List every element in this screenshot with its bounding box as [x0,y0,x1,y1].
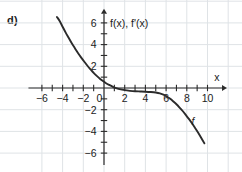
y-tick-label: −2 [85,104,97,116]
origin-label: 0 [97,92,103,104]
x-tick-label: 2 [122,92,128,104]
x-tick-label: 10 [202,92,214,104]
y-axis-label: f(x), f'(x) [110,17,148,29]
y-tick-label: −4 [85,125,97,137]
y-tick-label: 4 [91,38,97,50]
x-axis-label: x [214,71,220,83]
function-curve-f [57,17,204,143]
x-tick-label: 4 [142,92,148,104]
figure-panel: d) −6−4−22468100642−2−4−6 x f(x), f'(x) … [0,0,242,172]
y-tick-label: 6 [91,17,97,29]
curve-label-f: f [192,116,196,127]
y-tick-label: −6 [85,147,97,159]
coordinate-plot: −6−4−22468100642−2−4−6 x f(x), f'(x) f [0,0,242,172]
x-tick-label: −2 [77,92,89,104]
x-tick-label: 8 [184,92,190,104]
x-tick-label: −4 [57,92,69,104]
x-tick-label: −6 [36,92,48,104]
